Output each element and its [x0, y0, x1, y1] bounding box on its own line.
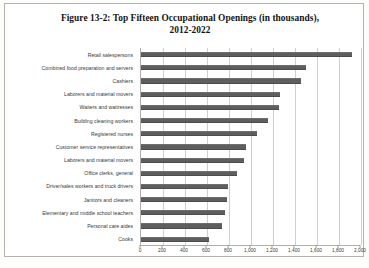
x-axis-label: 1,400	[288, 248, 300, 253]
bar	[141, 78, 301, 83]
bar	[141, 105, 279, 110]
y-axis-label: Driver/sales workers and truck drivers	[5, 180, 137, 193]
x-axis-label: 1,600	[310, 248, 322, 253]
bar	[141, 197, 227, 202]
bar-row	[141, 154, 360, 167]
bar-row	[141, 74, 360, 87]
bar-row	[141, 140, 360, 153]
bar	[141, 118, 268, 123]
bar	[141, 237, 209, 242]
y-axis-label: Janitors and cleaners	[5, 193, 137, 206]
y-axis-label: Personal care aides	[5, 219, 137, 232]
bar	[141, 92, 280, 97]
bar-row	[141, 206, 360, 219]
bar	[141, 131, 257, 136]
bar-row	[141, 127, 360, 140]
bar-row	[141, 233, 360, 246]
gridline-2000	[361, 48, 362, 245]
x-axis-label: 1,000	[244, 248, 256, 253]
y-axis-label: Laborers and material movers	[5, 88, 137, 101]
figure-title: Figure 13-2: Top Fifteen Occupational Op…	[25, 13, 355, 36]
bar	[141, 210, 225, 215]
x-axis-label: 400	[180, 248, 188, 253]
y-axis-label: Office clerks, general	[5, 167, 137, 180]
bar-row	[141, 114, 360, 127]
bar-row	[141, 193, 360, 206]
y-axis-label: Cooks	[5, 233, 137, 246]
y-axis-label: Waiters and waitresses	[5, 101, 137, 114]
figure-title-line-1: Figure 13-2: Top Fifteen Occupational Op…	[25, 13, 355, 25]
figure-title-line-2: 2012-2022	[25, 25, 355, 37]
x-axis-label: 200	[158, 248, 166, 253]
x-axis-label: 1,800	[332, 248, 344, 253]
y-axis-category-labels: Retail salespersonsCombined food prepara…	[5, 48, 137, 246]
bar	[141, 144, 246, 149]
bar-chart: Retail salespersonsCombined food prepara…	[5, 44, 369, 268]
plot-area	[140, 48, 360, 246]
x-axis-label: 2,000	[354, 248, 366, 253]
bar-row	[141, 101, 360, 114]
bar-row	[141, 61, 360, 74]
bar-row	[141, 48, 360, 61]
bar	[141, 65, 306, 70]
x-axis-label: 0	[139, 248, 142, 253]
x-axis-label: 1,200	[266, 248, 278, 253]
bar-row	[141, 88, 360, 101]
x-axis-label: 600	[202, 248, 210, 253]
bar-row	[141, 219, 360, 232]
y-axis-label: Laborers and material movers	[5, 154, 137, 167]
bar	[141, 171, 237, 176]
y-axis-label: Retail salespersons	[5, 48, 137, 61]
bar	[141, 184, 228, 189]
bar-rows	[141, 48, 360, 245]
x-axis-tick-labels: 02004006008001,0001,2001,4001,6001,8002,…	[140, 248, 360, 260]
figure-page: Figure 13-2: Top Fifteen Occupational Op…	[0, 0, 369, 268]
y-axis-label: Building cleaning workers	[5, 114, 137, 127]
bar	[141, 158, 244, 163]
figure-frame: Figure 13-2: Top Fifteen Occupational Op…	[4, 3, 364, 257]
y-axis-label: Customer service representatives	[5, 140, 137, 153]
bar-row	[141, 167, 360, 180]
bar-row	[141, 180, 360, 193]
y-axis-label: Cashiers	[5, 74, 137, 87]
y-axis-label: Elementary and middle school teachers	[5, 206, 137, 219]
y-axis-label: Combined food preparation and servers	[5, 61, 137, 74]
y-axis-label: Registered nurses	[5, 127, 137, 140]
bar	[141, 223, 222, 228]
x-axis-label: 800	[224, 248, 232, 253]
bar	[141, 52, 352, 57]
